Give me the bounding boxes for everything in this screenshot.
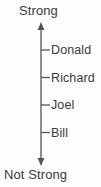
scale-item-label-bill: Bill	[51, 127, 68, 140]
scale-item-label-richard: Richard	[51, 72, 95, 85]
arrowhead-up-icon	[38, 22, 45, 30]
scale-axis-graphic	[0, 0, 101, 187]
scale-item-label-joel: Joel	[51, 99, 74, 112]
rating-scale-figure: Strong Donald Richard Joel Bill Not Stro…	[0, 0, 101, 187]
arrowhead-down-icon	[38, 158, 45, 166]
scale-item-label-donald: Donald	[51, 44, 91, 57]
scale-bottom-label: Not Strong	[4, 168, 67, 181]
